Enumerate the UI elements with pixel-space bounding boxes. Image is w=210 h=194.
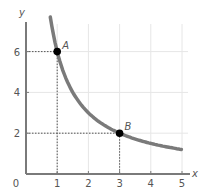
y-tick-label: 4 <box>14 87 20 98</box>
axes <box>26 22 190 174</box>
point-label-a: A <box>61 40 69 51</box>
y-tick-label: 6 <box>14 47 20 58</box>
x-tick-label: 4 <box>148 178 154 189</box>
y-axis-label: y <box>18 7 26 18</box>
origin-label: 0 <box>13 178 19 189</box>
chart: 12345246 AB y x 0 <box>0 0 210 194</box>
y-tick-label: 2 <box>14 128 20 139</box>
x-tick-label: 2 <box>85 178 91 189</box>
point-a <box>53 48 61 56</box>
x-tick-label: 1 <box>54 178 60 189</box>
x-axis-label: x <box>191 168 198 179</box>
x-tick-label: 5 <box>179 178 185 189</box>
x-tick-label: 3 <box>116 178 122 189</box>
grid-lines <box>26 24 188 174</box>
point-b <box>116 129 124 137</box>
curve-line <box>50 17 181 149</box>
guide-lines <box>26 52 120 174</box>
point-label-b: B <box>125 121 132 132</box>
tick-labels: 12345246 <box>14 47 185 189</box>
